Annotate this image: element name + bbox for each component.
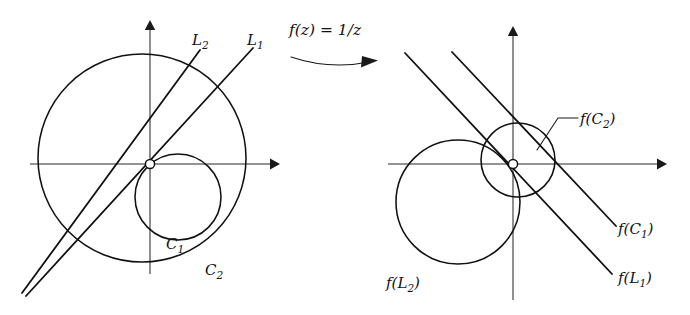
label-f-C2: f(C2) [579,110,616,130]
left-x-axis-arrowhead-icon [270,159,280,170]
right-panel-w-plane: f(C2) f(C1) f(L1) f(L2) [385,26,667,300]
label-L1: L1 [246,31,264,51]
mapping-arrow-group: f(z) = 1/z [288,21,378,68]
label-L2: L2 [191,31,209,51]
right-x-axis-arrowhead-icon [657,159,667,170]
figure-root: L2 L1 C1 C2 f(z) = 1/z f(C2) f [0,0,690,315]
conformal-mapping-figure: L2 L1 C1 C2 f(z) = 1/z f(C2) f [0,0,690,315]
label-C2: C2 [205,261,223,281]
line-L1 [26,48,253,296]
line-f-C1 [452,52,616,226]
curved-right-arrow-icon [291,57,369,65]
left-panel-z-plane: L2 L1 C1 C2 [22,20,280,296]
callout-leader-f-C2 [537,118,578,150]
curve-f-L2 [396,140,520,264]
right-y-axis-arrowhead-icon [508,26,518,36]
mapping-label: f(z) = 1/z [288,21,362,39]
curve-C2 [38,54,246,262]
label-f-C1: f(C1) [617,220,654,240]
mapping-arrowhead-icon [361,56,378,68]
right-origin-marker [508,159,517,168]
label-f-L1: f(L1) [617,269,652,289]
left-y-axis-arrowhead-icon [145,20,155,30]
left-axes [30,20,280,274]
label-C1: C1 [166,235,184,255]
left-origin-marker [145,159,154,168]
right-axes [388,26,667,300]
label-f-L2: f(L2) [385,274,420,294]
